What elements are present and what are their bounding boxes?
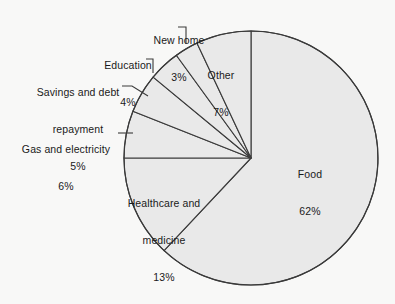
slice-label-healthcare-pct: 13% [112,271,216,283]
slice-label-healthcare-name2: medicine [112,234,216,246]
pie-chart: New home 3% Education 4% Savings and deb… [0,0,395,304]
slice-label-gas-electricity-pct: 6% [10,180,122,192]
slice-label-other: Other 7% [196,44,246,143]
slice-label-healthcare-name1: Healthcare and [112,197,216,209]
slice-label-food: Food 62% [285,143,335,242]
slice-label-food-pct: 62% [285,205,335,217]
slice-label-savings-name1: Savings and debt [22,86,134,98]
slice-label-gas-electricity-name: Gas and electricity [10,143,122,155]
slice-label-healthcare: Healthcare and medicine 13% [112,172,216,304]
slice-label-gas-electricity: Gas and electricity 6% [10,118,122,217]
slice-label-food-name: Food [285,168,335,180]
slice-label-other-name: Other [196,69,246,81]
slice-label-other-pct: 7% [196,106,246,118]
